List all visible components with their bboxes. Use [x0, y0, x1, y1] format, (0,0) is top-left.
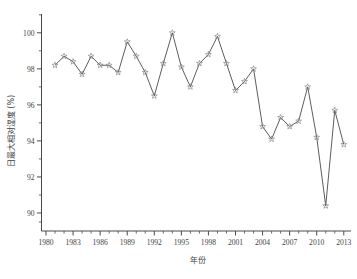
y-tick-label: 96 [27, 101, 35, 110]
y-tick-label: 98 [27, 65, 35, 74]
x-tick-label: 2010 [309, 238, 324, 247]
x-axis-title: 年份 [190, 255, 206, 265]
x-tick-label: 2013 [336, 238, 351, 247]
data-series [55, 33, 344, 206]
x-tick-label: 1989 [120, 238, 135, 247]
y-tick-label: 100 [23, 29, 35, 38]
x-axis: 1980198319861989199219951998200120042007… [38, 231, 351, 247]
x-tick-label: 1983 [65, 238, 80, 247]
x-tick-label: 1995 [174, 238, 189, 247]
x-tick-label: 2004 [255, 238, 270, 247]
y-axis-title: 日最大相对湿度 (%) [6, 95, 16, 167]
y-tick-label: 92 [27, 173, 35, 182]
x-tick-label: 1992 [147, 238, 162, 247]
data-markers [52, 30, 347, 209]
y-tick-label: 90 [27, 209, 35, 218]
chart-canvas: 9092949698100 19801983198619891992199519… [0, 0, 357, 279]
y-tick-label: 94 [27, 137, 35, 146]
x-tick-label: 1980 [38, 238, 53, 247]
x-tick-label: 1986 [93, 238, 108, 247]
humidity-line-chart: 9092949698100 19801983198619891992199519… [0, 0, 357, 279]
x-tick-label: 1998 [201, 238, 216, 247]
x-tick-label: 2007 [282, 238, 297, 247]
x-tick-label: 2001 [228, 238, 243, 247]
y-axis: 9092949698100 [23, 14, 41, 231]
